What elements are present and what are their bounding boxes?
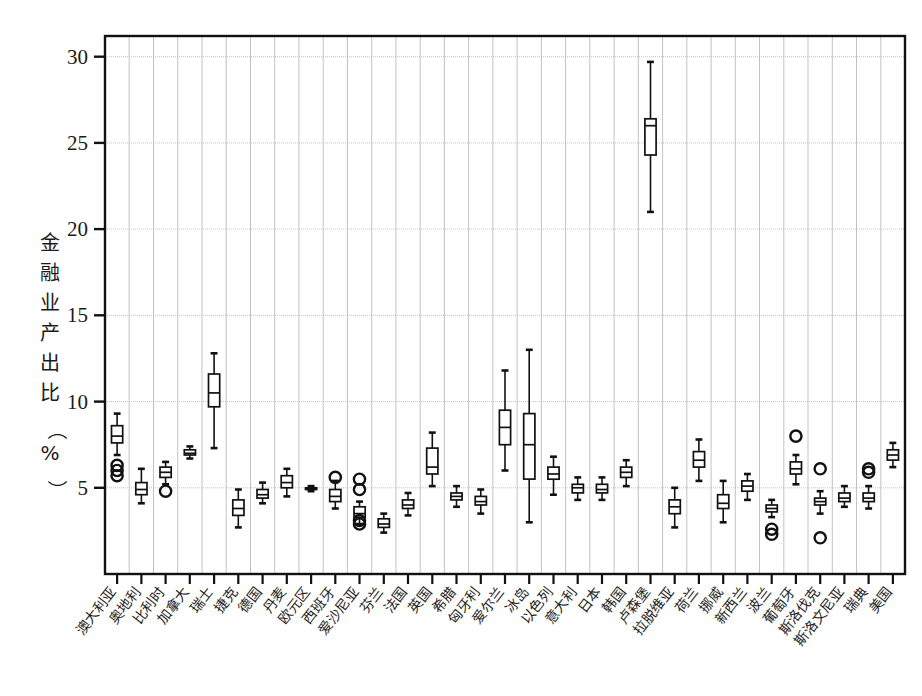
box-plot-item xyxy=(887,443,898,467)
box-plot-item xyxy=(863,463,874,508)
x-axis-labels: 澳大利亚奥地利比利时加拿大瑞士捷克德国丹麦欧元区西班牙爱沙尼亚芬兰法国英国希腊匈… xyxy=(72,584,895,649)
box-plot-item xyxy=(427,433,438,487)
grid-lines xyxy=(105,36,905,574)
box-plot-item xyxy=(354,474,365,530)
box-iqr xyxy=(257,490,268,499)
box-plot-item xyxy=(669,488,680,528)
x-axis-category-label: 瑞士 xyxy=(187,584,217,616)
box-iqr xyxy=(184,450,195,455)
x-axis xyxy=(117,574,893,584)
box-plot-item xyxy=(112,414,123,482)
box-plot-item xyxy=(160,462,171,497)
y-axis-title: 金融业产出比（%） xyxy=(40,231,69,500)
x-axis-category-label: 瑞典 xyxy=(841,584,871,616)
boxes-layer xyxy=(112,62,899,544)
box-plot-item xyxy=(548,457,559,495)
x-axis-category-label: 芬兰 xyxy=(356,584,386,616)
box-plot-item xyxy=(451,486,462,507)
outlier-point xyxy=(815,532,826,543)
boxplot-figure: 51015202530金融业产出比（%）澳大利亚奥地利比利时加拿大瑞士捷克德国丹… xyxy=(0,0,922,696)
box-plot-item xyxy=(233,490,244,528)
plot-frame xyxy=(105,36,905,574)
outlier-point xyxy=(160,486,171,497)
x-axis-category-label: 日本 xyxy=(575,584,605,616)
y-axis-tick-label: 15 xyxy=(67,303,88,327)
box-iqr xyxy=(524,414,535,480)
box-plot-item xyxy=(306,486,317,491)
box-iqr xyxy=(112,426,123,443)
x-axis-category-label: 英国 xyxy=(405,584,435,616)
box-plot-item xyxy=(378,514,389,533)
box-plot-item xyxy=(839,486,850,507)
x-axis-category-label: 荷兰 xyxy=(671,584,701,616)
y-axis-title-char: 金 xyxy=(40,231,60,255)
box-plot-item xyxy=(693,440,704,481)
y-axis-tick-label: 10 xyxy=(67,390,88,414)
box-plot-item xyxy=(136,469,147,504)
y-axis: 51015202530 xyxy=(67,45,105,500)
box-plot-item xyxy=(790,431,801,485)
y-axis-title-char: 比 xyxy=(40,381,60,405)
box-plot-item xyxy=(475,490,486,514)
box-plot-item xyxy=(718,481,729,522)
y-axis-title-char: ） xyxy=(45,480,69,500)
box-plot-item xyxy=(596,477,607,500)
box-plot-item xyxy=(742,474,753,500)
box-plot-item xyxy=(645,62,656,212)
box-iqr xyxy=(378,519,389,528)
box-plot-item xyxy=(257,483,268,504)
y-axis-title-char: % xyxy=(40,441,59,465)
box-iqr xyxy=(596,484,607,493)
y-axis-tick-label: 20 xyxy=(67,217,88,241)
box-plot-item xyxy=(281,469,292,497)
y-axis-tick-label: 30 xyxy=(67,45,88,69)
box-plot-item xyxy=(621,460,632,486)
box-iqr xyxy=(645,119,656,155)
box-plot-item xyxy=(524,350,535,523)
box-plot-item xyxy=(403,493,414,515)
box-plot-item xyxy=(499,371,510,471)
box-plot-item xyxy=(815,463,826,543)
y-axis-title-char: （ xyxy=(45,420,69,440)
box-iqr xyxy=(427,448,438,474)
boxplot-chart: 51015202530金融业产出比（%）澳大利亚奥地利比利时加拿大瑞士捷克德国丹… xyxy=(0,0,922,696)
x-axis-category-label: 法国 xyxy=(381,584,411,616)
y-axis-title-char: 产 xyxy=(40,321,60,345)
y-axis-tick-label: 25 xyxy=(67,131,88,155)
outlier-point xyxy=(815,463,826,474)
y-axis-tick-label: 5 xyxy=(78,476,89,500)
box-plot-item xyxy=(766,500,777,540)
y-axis-title-char: 融 xyxy=(40,261,60,285)
y-axis-title-char: 出 xyxy=(40,351,60,375)
box-plot-item xyxy=(209,353,220,448)
outlier-point xyxy=(790,431,801,442)
x-axis-category-label: 捷克 xyxy=(211,584,241,616)
box-plot-item xyxy=(330,472,341,509)
box-iqr xyxy=(475,496,486,505)
x-axis-category-label: 德国 xyxy=(235,584,265,616)
box-plot-item xyxy=(572,477,583,500)
box-iqr xyxy=(209,374,220,407)
box-plot-item xyxy=(184,446,195,458)
box-iqr xyxy=(718,495,729,509)
y-axis-title-char: 业 xyxy=(40,291,60,315)
x-axis-category-label: 美国 xyxy=(865,584,895,616)
